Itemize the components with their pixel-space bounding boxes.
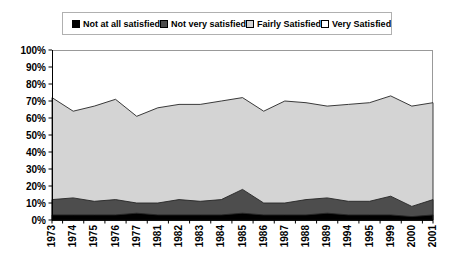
y-tick-label: 50% (0, 130, 46, 141)
y-tick-label: 30% (0, 164, 46, 175)
x-tick-label: 1977 (131, 225, 143, 253)
y-tick-label: 80% (0, 79, 46, 90)
x-tick-label: 1973 (46, 225, 58, 253)
x-tick-label: 1983 (194, 225, 206, 253)
x-tick-label: 1976 (110, 225, 122, 253)
x-tick-label: 1986 (258, 225, 270, 253)
x-tick-label: 1994 (342, 225, 354, 253)
y-tick-label: 10% (0, 198, 46, 209)
x-tick-label: 1982 (173, 225, 185, 253)
x-tick-label: 2000 (406, 225, 418, 253)
x-tick-label: 1987 (279, 225, 291, 253)
x-tick-label: 1995 (364, 225, 376, 253)
x-tick-label: 1981 (152, 225, 164, 253)
x-tick-label: 1989 (321, 225, 333, 253)
satisfaction-stacked-area-chart: Not at all satisfied Not very satisfied … (0, 0, 453, 277)
x-tick-label: 1988 (300, 225, 312, 253)
y-tick-label: 0% (0, 215, 46, 226)
x-tick-label: 2001 (427, 225, 439, 253)
y-tick-label: 90% (0, 62, 46, 73)
x-tick-label: 1984 (215, 225, 227, 253)
y-tick-label: 20% (0, 181, 46, 192)
x-tick-label: 1985 (237, 225, 249, 253)
y-tick-label: 60% (0, 113, 46, 124)
y-tick-label: 70% (0, 96, 46, 107)
y-tick-label: 100% (0, 45, 46, 56)
x-tick-label: 1975 (88, 225, 100, 253)
y-tick-label: 40% (0, 147, 46, 158)
x-tick-label: 1999 (385, 225, 397, 253)
x-tick-label: 1974 (67, 225, 79, 253)
